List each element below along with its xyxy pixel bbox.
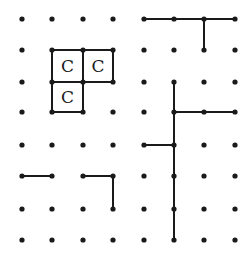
grid-dot[interactable] — [201, 142, 206, 147]
grid-dot[interactable] — [232, 173, 237, 178]
grid-dot[interactable] — [201, 237, 206, 242]
grid-dot[interactable] — [110, 173, 115, 178]
grid-dot[interactable] — [110, 109, 115, 114]
grid-dot[interactable] — [141, 47, 146, 52]
grid-dot[interactable] — [141, 16, 146, 21]
grid-dot[interactable] — [201, 79, 206, 84]
grid-dot[interactable] — [141, 206, 146, 211]
game-board[interactable]: CCC — [0, 0, 248, 264]
dot-grid — [19, 16, 237, 242]
grid-dot[interactable] — [232, 206, 237, 211]
grid-dot[interactable] — [141, 173, 146, 178]
grid-dot[interactable] — [110, 79, 115, 84]
grid-dot[interactable] — [232, 109, 237, 114]
grid-dot[interactable] — [110, 206, 115, 211]
grid-dot[interactable] — [171, 142, 176, 147]
grid-dot[interactable] — [49, 47, 54, 52]
grid-dot[interactable] — [49, 173, 54, 178]
grid-dot[interactable] — [201, 47, 206, 52]
grid-dot[interactable] — [201, 16, 206, 21]
grid-dot[interactable] — [80, 47, 85, 52]
grid-dot[interactable] — [49, 79, 54, 84]
grid-dot[interactable] — [80, 206, 85, 211]
box-owner-label: C — [61, 56, 74, 76]
box-owner-label: C — [91, 56, 104, 76]
grid-dot[interactable] — [110, 237, 115, 242]
grid-dot[interactable] — [49, 16, 54, 21]
grid-dot[interactable] — [141, 79, 146, 84]
grid-dot[interactable] — [201, 206, 206, 211]
grid-dot[interactable] — [232, 79, 237, 84]
grid-dot[interactable] — [80, 109, 85, 114]
grid-dot[interactable] — [141, 237, 146, 242]
grid-dot[interactable] — [49, 109, 54, 114]
grid-dot[interactable] — [80, 79, 85, 84]
grid-dot[interactable] — [141, 109, 146, 114]
grid-dot[interactable] — [49, 237, 54, 242]
grid-dot[interactable] — [19, 79, 24, 84]
grid-dot[interactable] — [80, 16, 85, 21]
grid-dot[interactable] — [201, 173, 206, 178]
grid-dot[interactable] — [110, 47, 115, 52]
grid-dot[interactable] — [232, 47, 237, 52]
grid-dot[interactable] — [171, 47, 176, 52]
grid-dot[interactable] — [80, 173, 85, 178]
grid-dot[interactable] — [49, 206, 54, 211]
grid-dot[interactable] — [171, 206, 176, 211]
grid-dot[interactable] — [19, 206, 24, 211]
grid-dot[interactable] — [80, 237, 85, 242]
grid-dot[interactable] — [19, 109, 24, 114]
grid-dot[interactable] — [232, 16, 237, 21]
grid-dot[interactable] — [171, 173, 176, 178]
grid-dot[interactable] — [141, 142, 146, 147]
grid-dot[interactable] — [49, 142, 54, 147]
grid-dot[interactable] — [201, 109, 206, 114]
grid-dot[interactable] — [232, 237, 237, 242]
grid-dot[interactable] — [232, 142, 237, 147]
grid-dot[interactable] — [171, 237, 176, 242]
grid-dot[interactable] — [19, 142, 24, 147]
grid-dot[interactable] — [171, 16, 176, 21]
grid-dot[interactable] — [171, 109, 176, 114]
grid-dot[interactable] — [19, 16, 24, 21]
grid-dot[interactable] — [171, 79, 176, 84]
grid-dot[interactable] — [19, 173, 24, 178]
grid-dot[interactable] — [19, 47, 24, 52]
grid-dot[interactable] — [80, 142, 85, 147]
grid-dot[interactable] — [110, 16, 115, 21]
box-owner-label: C — [61, 87, 74, 107]
grid-dot[interactable] — [19, 237, 24, 242]
grid-dot[interactable] — [110, 142, 115, 147]
